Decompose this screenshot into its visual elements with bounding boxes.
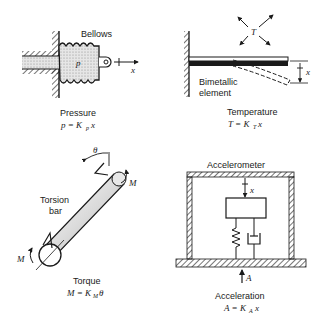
pipe-fluid bbox=[22, 56, 60, 69]
svg-text:x: x bbox=[254, 303, 259, 313]
acceleration-equation: A = K A x bbox=[223, 303, 259, 314]
bellows-label: Bellows bbox=[81, 29, 113, 39]
svg-text:A = K: A = K bbox=[223, 303, 247, 313]
torque-equation: M = K M θ bbox=[66, 288, 104, 299]
svg-text:p: p bbox=[85, 125, 89, 131]
pressure-symbol: p bbox=[75, 58, 81, 68]
transducer-diagram: x Bellows p Pressure p = K p x x bbox=[0, 0, 323, 329]
housing-right bbox=[289, 177, 294, 259]
base-plate bbox=[176, 259, 306, 267]
temperature-equation: T = K T x bbox=[228, 119, 262, 130]
svg-text:A: A bbox=[248, 308, 253, 314]
svg-text:x: x bbox=[90, 120, 95, 130]
pipe-hatch-top bbox=[22, 51, 59, 56]
spring bbox=[232, 218, 240, 259]
seismic-mass bbox=[226, 198, 266, 218]
svg-text:x: x bbox=[257, 119, 262, 129]
housing-left bbox=[187, 177, 192, 259]
torsion-bar-label-line1: Torsion bbox=[40, 195, 69, 205]
bar-end-top bbox=[112, 172, 126, 186]
output-lug bbox=[99, 57, 111, 67]
acceleration-panel: x A Accelerometer Acceleration A = K A x bbox=[176, 160, 306, 314]
torque-caption-title: Torque bbox=[73, 276, 101, 286]
displacement-symbol: x bbox=[305, 67, 310, 77]
torsion-bar-label-line2: bar bbox=[49, 206, 62, 216]
moment-arrow-bottom bbox=[30, 248, 33, 263]
pressure-equation: p = K p x bbox=[60, 120, 95, 131]
svg-text:T: T bbox=[253, 124, 257, 130]
displacement-symbol: x bbox=[130, 65, 135, 75]
bimetallic-label-line2: element bbox=[199, 88, 232, 98]
bimetal-top-layer bbox=[189, 57, 288, 61]
housing-top bbox=[187, 172, 294, 177]
svg-text:p = K: p = K bbox=[60, 120, 83, 130]
svg-text:M: M bbox=[92, 293, 99, 299]
pressure-caption-title: Pressure bbox=[60, 108, 96, 118]
svg-text:T = K: T = K bbox=[228, 119, 250, 129]
moment-symbol-top: M bbox=[128, 178, 137, 188]
temperature-caption-title: Temperature bbox=[227, 107, 278, 117]
accelerometer-label: Accelerometer bbox=[207, 160, 265, 170]
angle-symbol: θ bbox=[93, 145, 98, 155]
temperature-panel: x T Bimetallic element Temperature T = K… bbox=[184, 15, 310, 130]
pipe-hatch-bottom bbox=[22, 69, 59, 74]
displacement-symbol: x bbox=[249, 185, 254, 195]
svg-text:θ: θ bbox=[99, 288, 104, 298]
wall-hatch bbox=[184, 31, 189, 97]
temperature-symbol: T bbox=[251, 27, 257, 37]
acceleration-caption-title: Acceleration bbox=[215, 291, 265, 301]
svg-text:M = K: M = K bbox=[66, 288, 92, 298]
acceleration-symbol: A bbox=[245, 273, 252, 283]
moment-symbol-bottom: M bbox=[16, 254, 25, 264]
bimetallic-label-line1: Bimetallic bbox=[199, 77, 238, 87]
torque-panel: θ M M Torsion bar Torque M = K M θ bbox=[16, 145, 137, 299]
pointer-top bbox=[95, 163, 108, 175]
pressure-panel: x Bellows p Pressure p = K p x bbox=[22, 29, 138, 131]
